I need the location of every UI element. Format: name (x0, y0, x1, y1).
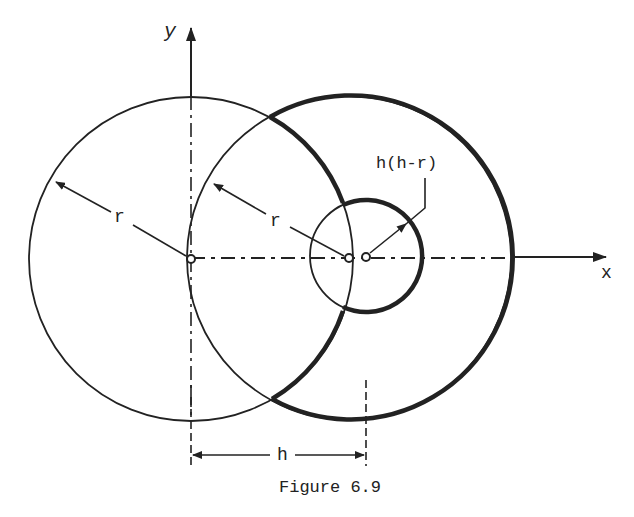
figure-caption: Figure 6.9 (279, 478, 381, 497)
left-circle-thick-arc-upper (270, 117, 343, 203)
small-radius-label: h(h-r) (376, 154, 437, 173)
small-circle-center (362, 253, 370, 261)
offset-label: h (277, 445, 288, 465)
figure-6-9-diagram: r r h(h-r) y x h (0, 0, 634, 517)
x-axis (191, 257, 606, 258)
left-radius-label: r (114, 207, 125, 227)
y-axis-label: y (163, 20, 177, 43)
x-axis-label: x (601, 263, 612, 283)
right-circle-center (345, 254, 353, 262)
left-circle-thick-arc-lower (272, 311, 343, 399)
origin-point (187, 255, 195, 263)
small-circle-thick-arc (343, 200, 422, 312)
figure-caption-container: Figure 6.9 (0, 478, 634, 497)
right-radius-label: r (270, 211, 281, 231)
small-radius-arrow (370, 178, 425, 253)
